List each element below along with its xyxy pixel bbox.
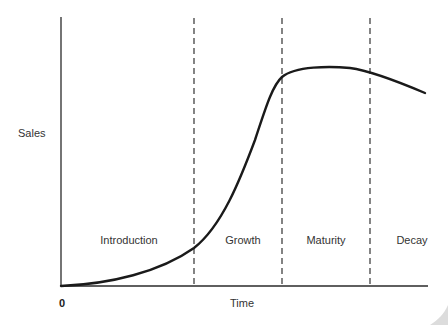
stage-label-growth: Growth xyxy=(225,234,260,246)
page-curl-decoration xyxy=(430,305,448,325)
x-axis-label: Time xyxy=(230,297,254,309)
stage-label-maturity: Maturity xyxy=(306,234,345,246)
stage-label-decay: Decay xyxy=(396,234,427,246)
stage-label-introduction: Introduction xyxy=(100,234,157,246)
origin-label: 0 xyxy=(59,297,65,309)
product-life-cycle-chart xyxy=(0,0,448,325)
y-axis-label: Sales xyxy=(18,127,46,139)
